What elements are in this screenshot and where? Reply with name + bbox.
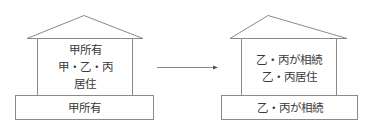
right-house-roof xyxy=(230,16,347,39)
arrow-right-icon xyxy=(157,66,218,70)
right-house-line-1: 乙・丙が相続 xyxy=(241,52,337,68)
left-house-line-3: 居住 xyxy=(37,76,133,92)
left-house-line-2: 甲・乙・丙 xyxy=(37,59,133,75)
left-house-line-1: 甲所有 xyxy=(37,42,133,58)
right-house-line-2: 乙・丙居住 xyxy=(241,69,337,85)
right-house-base-label: 乙・丙が相続 xyxy=(221,100,358,116)
left-house-base-label: 甲所有 xyxy=(15,100,154,116)
left-house-roof xyxy=(27,16,143,39)
